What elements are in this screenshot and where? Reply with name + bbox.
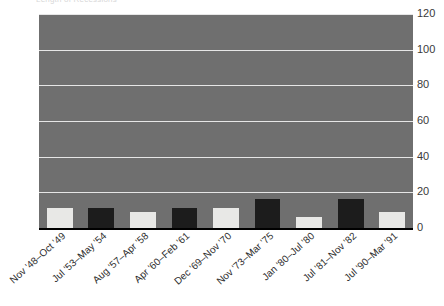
bar [255,199,281,228]
x-axis-labels: Nov '48–Oct '49Jul '53–May '54Aug '57–Ap… [0,230,444,306]
y-tick-label: 100 [417,44,435,55]
y-tick-label: 20 [417,186,429,197]
y-tick-label: 60 [417,115,429,126]
bar [88,208,114,228]
chart-title-clipped: Length of Recessions [36,0,176,5]
y-tick-label: 80 [417,79,429,90]
bar [213,208,239,228]
bar [296,217,322,228]
y-tick-label: 120 [417,8,435,19]
bar-chart: Length of Recessions 020406080100120 Nov… [0,0,444,306]
y-tick-label: 40 [417,151,429,162]
bar [338,199,364,228]
plot-area [39,14,413,228]
chart-title-text: Length of Recessions [36,0,176,4]
bar [379,212,405,228]
bar-series [39,14,413,228]
bar [130,212,156,228]
bar [47,208,73,228]
y-axis: 020406080100120 [415,0,444,240]
bar [172,208,198,228]
